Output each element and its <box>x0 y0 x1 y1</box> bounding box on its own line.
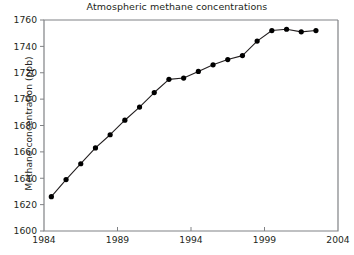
data-point <box>181 75 186 80</box>
x-axis-tick-label: 1999 <box>253 234 277 245</box>
y-axis-tick-label: 1740 <box>14 41 38 52</box>
data-point <box>166 77 171 82</box>
data-point <box>137 104 142 109</box>
axis-frame-path <box>44 20 338 231</box>
y-axis-tick-label: 1680 <box>14 120 38 131</box>
y-axis-tick-label: 1760 <box>14 14 38 25</box>
data-point <box>152 90 157 95</box>
x-axis-tick-group: 19841989199419992004 <box>32 227 350 245</box>
data-point <box>210 62 215 67</box>
data-point <box>269 28 274 33</box>
data-point <box>93 145 98 150</box>
data-point <box>240 53 245 58</box>
y-axis-tick-label: 1700 <box>14 93 38 104</box>
data-point <box>225 57 230 62</box>
data-point <box>313 28 318 33</box>
y-axis-tick-label: 1720 <box>14 67 38 78</box>
data-point <box>284 27 289 32</box>
plot-area: 160016201640166016801700172017401760 198… <box>0 0 354 255</box>
data-point <box>78 161 83 166</box>
y-axis-tick-label: 1640 <box>14 173 38 184</box>
data-point <box>255 39 260 44</box>
data-point <box>299 29 304 34</box>
data-line <box>51 29 316 196</box>
methane-chart-figure: Atmospheric methane concentrations Metha… <box>0 0 354 255</box>
x-axis-tick-label: 2004 <box>326 234 350 245</box>
y-axis-tick-group: 160016201640166016801700172017401760 <box>14 14 44 236</box>
y-axis-tick-label: 1620 <box>14 199 38 210</box>
y-axis-tick-label: 1660 <box>14 146 38 157</box>
data-point <box>108 132 113 137</box>
data-point <box>49 194 54 199</box>
data-point <box>63 177 68 182</box>
x-axis-tick-label: 1984 <box>32 234 56 245</box>
data-point <box>196 69 201 74</box>
x-axis-tick-label: 1994 <box>179 234 203 245</box>
x-axis-tick-label: 1989 <box>106 234 130 245</box>
axis-frame <box>44 20 338 231</box>
data-point <box>122 118 127 123</box>
data-point-group <box>49 27 319 200</box>
